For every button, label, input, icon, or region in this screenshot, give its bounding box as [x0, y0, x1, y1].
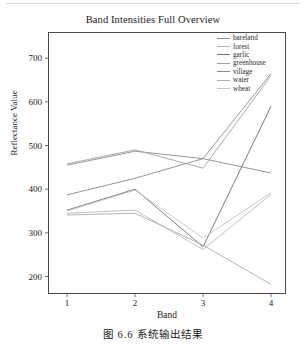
y-tick-label: 200: [16, 272, 42, 282]
legend-label: bareland: [233, 34, 258, 42]
series-lines: [67, 73, 271, 284]
legend-item-water: water: [217, 76, 266, 84]
legend-item-greenhouse: greenhouse: [217, 59, 266, 67]
legend-item-garlic: garlic: [217, 51, 266, 59]
legend-item-wheat: wheat: [217, 84, 266, 92]
y-tick-label: 300: [16, 228, 42, 238]
y-tick-label: 400: [16, 184, 42, 194]
chart-legend: barelandforestgarlicgreenhousevillagewat…: [216, 33, 268, 94]
figure-caption: 图 6.6 系统输出结果: [0, 326, 306, 341]
x-axis-label: Band: [48, 310, 286, 320]
legend-item-village: village: [217, 68, 266, 76]
y-tick-label: 700: [16, 53, 42, 63]
legend-swatch-icon: [217, 80, 230, 81]
legend-swatch-icon: [217, 46, 230, 47]
figure-container: Band Intensities Full Overview 200300400…: [0, 0, 306, 346]
legend-swatch-icon: [217, 88, 230, 89]
legend-item-forest: forest: [217, 42, 266, 50]
x-tick-label: 2: [125, 298, 145, 308]
legend-label: greenhouse: [233, 59, 266, 67]
y-tick-label: 500: [16, 141, 42, 151]
legend-label: forest: [233, 43, 249, 51]
series-line-forest: [67, 194, 271, 249]
legend-swatch-icon: [217, 71, 230, 72]
x-tick-label: 4: [261, 298, 281, 308]
legend-swatch-icon: [217, 38, 230, 39]
legend-label: wheat: [233, 85, 250, 93]
legend-swatch-icon: [217, 63, 230, 64]
axis-ticks: [45, 58, 271, 297]
legend-label: village: [233, 68, 253, 76]
legend-item-bareland: bareland: [217, 34, 266, 42]
legend-swatch-icon: [217, 54, 230, 55]
series-line-water: [67, 213, 271, 284]
x-tick-label: 3: [193, 298, 213, 308]
y-axis-label: Reflectance Value: [9, 63, 19, 183]
y-tick-label: 600: [16, 97, 42, 107]
series-line-village: [67, 159, 271, 195]
legend-label: water: [233, 76, 249, 84]
x-tick-label: 1: [57, 298, 77, 308]
series-line-garlic: [67, 106, 271, 247]
legend-label: garlic: [233, 51, 249, 59]
